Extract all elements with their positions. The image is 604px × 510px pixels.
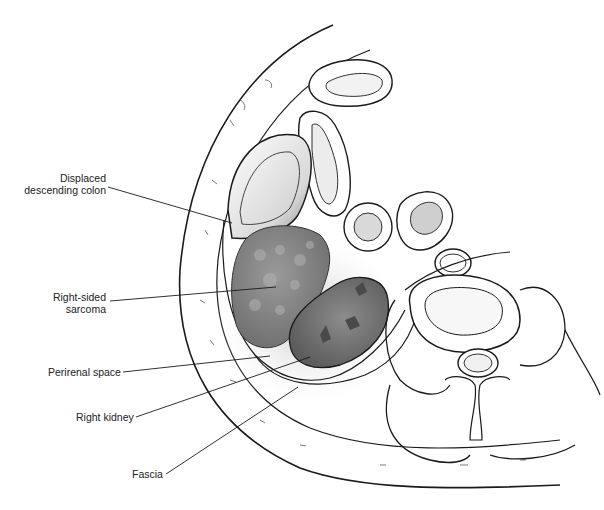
- descending-colon: [228, 134, 311, 238]
- leader-colon: [108, 187, 232, 223]
- figure: Displaced descending colon Right-sided s…: [0, 0, 604, 510]
- label-perirenal-space: Perirenal space: [48, 366, 121, 378]
- label-right-sided-sarcoma: Right-sided sarcoma: [22, 291, 106, 315]
- label-fascia: Fascia: [132, 468, 163, 480]
- vertebra: [410, 275, 520, 440]
- anatomy-illustration: [0, 0, 604, 510]
- label-displaced-colon: Displaced descending colon: [22, 172, 106, 196]
- label-right-kidney: Right kidney: [76, 411, 134, 423]
